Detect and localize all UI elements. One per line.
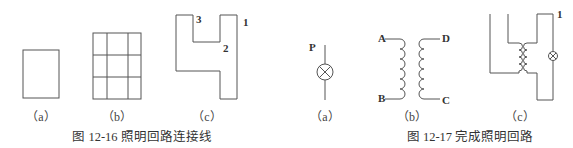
fig16-caption: 图 12-16 照明回路连接线 bbox=[72, 129, 211, 144]
fig17-c-label: （c） bbox=[505, 110, 534, 124]
fig17-b-terminal-c: C bbox=[442, 94, 450, 106]
fig17-c-point-1: 1 bbox=[557, 8, 563, 20]
fig16-a-label: （a） bbox=[26, 110, 55, 124]
fig17-caption: 图 12-17 完成照明回路 bbox=[407, 129, 533, 144]
fig17-b-terminal-a: A bbox=[378, 32, 386, 44]
figure-12-17: P （a） A D B C （b） bbox=[309, 8, 563, 144]
fig17-b-transformer-icon bbox=[385, 39, 440, 99]
fig17-a-lamp-icon bbox=[317, 45, 333, 100]
fig16-b-grid bbox=[93, 33, 141, 99]
fig16-c-loop bbox=[176, 15, 237, 99]
figure-canvas: （a） （b） 3 1 2 （c） 图 12-16 照明回路连接线 P （a） bbox=[0, 0, 573, 148]
fig16-a-rectangle bbox=[23, 50, 59, 98]
fig17-c-circuit bbox=[490, 14, 558, 100]
fig17-b-label: （b） bbox=[397, 110, 427, 124]
fig17-a-label: （a） bbox=[310, 110, 339, 124]
fig16-c-label: （c） bbox=[192, 110, 221, 124]
fig17-b-terminal-d: D bbox=[442, 32, 450, 44]
fig17-a-terminal-p: P bbox=[309, 41, 316, 53]
fig16-c-point-1: 1 bbox=[243, 16, 249, 28]
figure-12-16: （a） （b） 3 1 2 （c） 图 12-16 照明回路连接线 bbox=[23, 13, 249, 144]
fig16-b-label: （b） bbox=[102, 110, 132, 124]
fig17-b-terminal-b: B bbox=[378, 92, 386, 104]
fig16-c-point-2: 2 bbox=[223, 42, 229, 54]
fig16-c-point-3: 3 bbox=[196, 13, 202, 25]
